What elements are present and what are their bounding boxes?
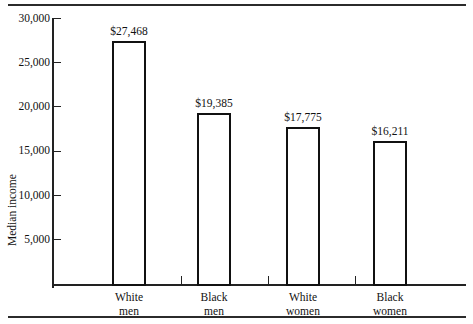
- y-axis-tick-15000: [54, 151, 61, 152]
- x-category-line-2: men: [84, 305, 174, 319]
- x-axis-separator-1: [181, 276, 182, 285]
- bar-white-women[interactable]: [286, 127, 320, 286]
- y-axis-tick-25000: [54, 62, 61, 63]
- y-tick-label-10000: 10,000: [4, 189, 50, 201]
- x-category-line-2: women: [258, 305, 348, 319]
- y-axis-tick-10000: [54, 195, 61, 196]
- x-category-line-2: women: [345, 305, 435, 319]
- x-axis-separator-2: [268, 276, 269, 285]
- y-tick-label-25000: 25,000: [4, 56, 50, 68]
- x-category-line-1: Black: [345, 291, 435, 305]
- x-category-label-black-women: Black women: [345, 291, 435, 318]
- plot-area: $27,468 $19,385 $17,775 $16,211 White me…: [52, 14, 466, 286]
- y-axis-line: [52, 18, 54, 288]
- bar-white-men[interactable]: [112, 41, 146, 286]
- bar-value-white-men: $27,468: [84, 25, 174, 37]
- bar-black-men[interactable]: [197, 113, 231, 286]
- y-tick-label-15000: 15,000: [4, 144, 50, 156]
- x-category-line-2: men: [169, 305, 259, 319]
- x-axis-separator-3: [355, 276, 356, 285]
- bar-value-white-women: $17,775: [258, 111, 348, 123]
- y-tick-label-5000: 5,000: [4, 233, 50, 245]
- x-category-line-1: White: [258, 291, 348, 305]
- x-category-line-1: White: [84, 291, 174, 305]
- y-tick-label-20000: 20,000: [4, 100, 50, 112]
- x-category-label-white-women: White women: [258, 291, 348, 318]
- y-axis-tick-30000: [54, 18, 61, 19]
- bar-value-black-men: $19,385: [169, 97, 259, 109]
- y-axis-tick-20000: [54, 106, 61, 107]
- y-tick-label-30000: 30,000: [4, 12, 50, 24]
- x-category-label-white-men: White men: [84, 291, 174, 318]
- x-category-label-black-men: Black men: [169, 291, 259, 318]
- x-category-line-1: Black: [169, 291, 259, 305]
- top-horizontal-rule: [8, 4, 466, 6]
- bar-value-black-women: $16,211: [345, 125, 435, 137]
- y-axis-tick-5000: [54, 239, 61, 240]
- chart-figure: Median income 30,000 25,000 20,000 15,00…: [0, 0, 473, 324]
- bar-black-women[interactable]: [373, 141, 407, 286]
